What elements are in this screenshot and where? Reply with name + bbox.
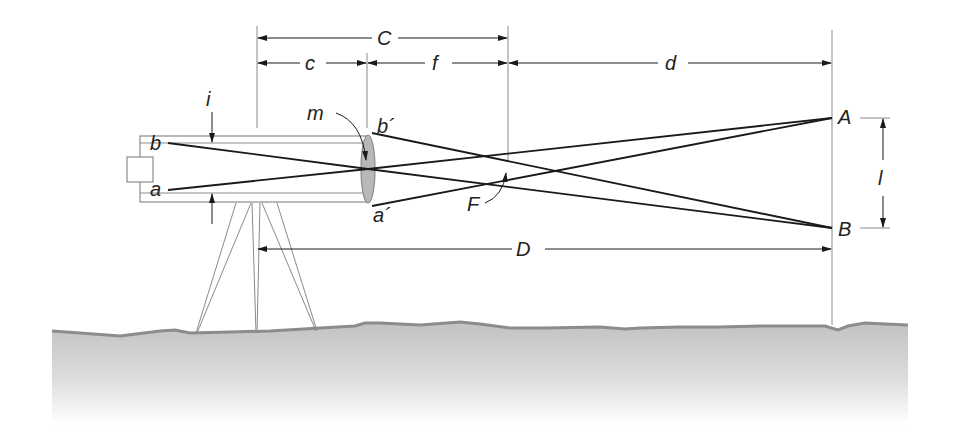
label-c: c <box>305 52 315 74</box>
label-a-prime: a´ <box>373 204 391 226</box>
label-f: f <box>432 52 440 74</box>
label-A: A <box>837 106 851 128</box>
ground <box>52 322 908 425</box>
label-B: B <box>838 218 851 240</box>
ray-B-through-F-to-b-prime <box>372 133 832 228</box>
label-d: d <box>665 52 677 74</box>
telescope <box>127 135 375 203</box>
ray-A-center <box>368 118 832 169</box>
label-b: b <box>150 132 161 154</box>
label-C: C <box>377 27 392 49</box>
ray-A-through-F-to-a-prime <box>372 118 832 206</box>
label-a: a <box>150 178 161 200</box>
label-m: m <box>307 102 324 124</box>
ray-B-center <box>368 169 832 228</box>
label-i: i <box>206 88 211 110</box>
label-D: D <box>516 238 530 260</box>
ground-fill <box>52 322 908 425</box>
label-l: l <box>878 167 883 189</box>
diagram-canvas: C c f d D i l A B a b a´ b´ m F <box>0 0 961 440</box>
telescope-tube <box>140 136 368 202</box>
label-b-prime: b´ <box>377 115 395 137</box>
tripod <box>196 203 317 333</box>
label-F: F <box>467 193 481 215</box>
